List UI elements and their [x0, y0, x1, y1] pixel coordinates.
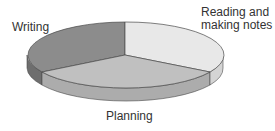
label-reading-line2: making notes	[201, 19, 272, 32]
label-reading-and-making-notes: Reading and making notes	[201, 6, 272, 32]
label-planning: Planning	[106, 110, 153, 123]
label-writing: Writing	[12, 21, 49, 34]
